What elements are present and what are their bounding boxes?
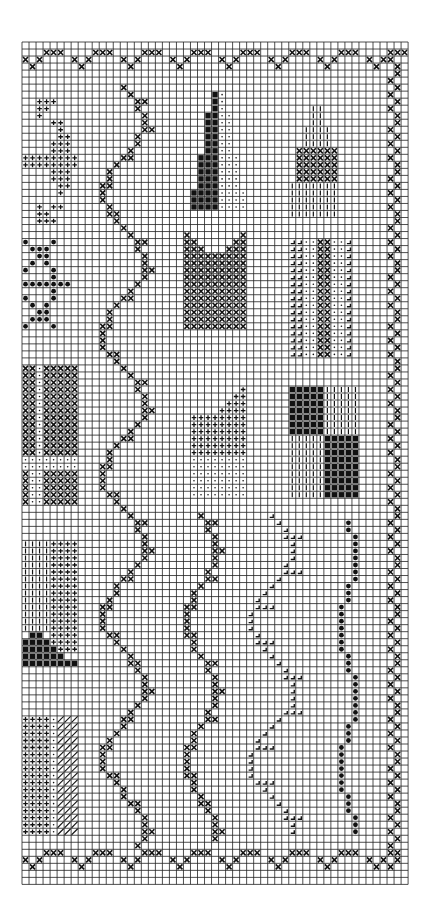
motif-dot-star — [23, 240, 70, 329]
motif-left-x-block-3 — [23, 471, 28, 504]
motif-top-border — [23, 50, 407, 69]
cross-stitch-chart — [0, 0, 428, 917]
motif-checker-black-2 — [325, 436, 359, 498]
chart-canvas — [0, 0, 428, 917]
motif-dot-vine — [339, 520, 358, 834]
motif-cupcake-base — [292, 183, 334, 216]
motif-checker-black-1 — [290, 387, 324, 435]
motif-left-x-block-4 — [44, 471, 77, 504]
motif-ell-block-right — [347, 241, 351, 356]
motif-left-hatch-block — [58, 716, 78, 834]
motif-checker-vline-1 — [327, 387, 355, 434]
motif-checker-vline-2 — [292, 436, 320, 497]
motif-left-dot-col-3 — [53, 719, 55, 833]
grid-lines — [22, 42, 408, 884]
